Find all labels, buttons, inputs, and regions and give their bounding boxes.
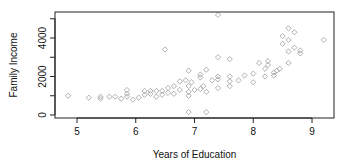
x-tick-label: 6 — [133, 126, 139, 137]
data-point — [154, 88, 159, 93]
data-point — [321, 37, 326, 42]
data-point — [262, 74, 267, 79]
x-tick-label: 7 — [192, 126, 198, 137]
y-tick-label: 4000 — [37, 26, 48, 49]
data-point — [142, 92, 147, 97]
data-point — [186, 89, 191, 94]
x-tick-label: 9 — [309, 126, 315, 137]
data-point — [251, 80, 256, 85]
data-point — [292, 45, 297, 50]
y-axis-title: Family Income — [8, 32, 19, 97]
data-point — [177, 87, 182, 92]
x-axis: 56789 — [74, 118, 315, 137]
data-point — [186, 110, 191, 115]
data-point — [136, 95, 141, 100]
data-points — [66, 12, 327, 114]
data-point — [265, 59, 270, 64]
data-point — [204, 67, 209, 72]
y-axis: 020004000 — [37, 19, 55, 118]
data-point — [130, 97, 135, 102]
data-point — [236, 78, 241, 83]
data-point — [86, 95, 91, 100]
data-point — [177, 79, 182, 84]
data-point — [257, 60, 262, 65]
data-point — [292, 30, 297, 35]
data-point — [113, 94, 118, 99]
data-point — [171, 84, 176, 89]
data-point — [154, 94, 159, 99]
data-point — [163, 47, 168, 52]
data-point — [192, 87, 197, 92]
data-point — [107, 94, 112, 99]
data-point — [66, 93, 71, 98]
data-point — [204, 89, 209, 94]
data-point — [186, 68, 191, 73]
data-point — [204, 110, 209, 115]
x-axis-title: Years of Education — [153, 149, 237, 160]
data-point — [251, 71, 256, 76]
data-point — [160, 88, 165, 93]
data-point — [286, 37, 291, 42]
data-point — [124, 87, 129, 92]
data-point — [286, 60, 291, 65]
data-point — [215, 12, 220, 17]
data-point — [98, 96, 103, 101]
data-point — [227, 57, 232, 62]
data-point — [242, 73, 247, 78]
data-point — [183, 78, 188, 83]
data-point — [210, 78, 215, 83]
y-tick-label: 0 — [37, 112, 48, 118]
data-point — [286, 26, 291, 31]
plot-frame — [55, 12, 334, 118]
data-point — [280, 33, 285, 38]
data-point — [171, 91, 176, 96]
data-point — [215, 85, 220, 90]
y-tick-label: 2000 — [37, 65, 48, 88]
data-point — [160, 92, 165, 97]
data-point — [118, 96, 123, 101]
x-tick-label: 8 — [250, 126, 256, 137]
scatter-chart: 56789 020004000 Years of Education Famil… — [0, 0, 344, 167]
data-point — [186, 93, 191, 98]
data-point — [142, 88, 147, 93]
x-tick-label: 5 — [74, 126, 80, 137]
data-point — [98, 94, 103, 99]
data-point — [280, 41, 285, 46]
data-point — [215, 55, 220, 60]
data-point — [286, 49, 291, 54]
